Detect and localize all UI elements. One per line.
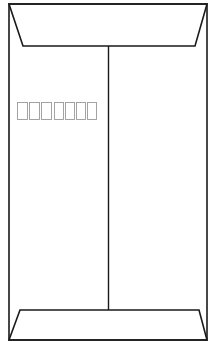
- postal-code-box: [42, 103, 52, 120]
- envelope-diagram: [0, 0, 212, 342]
- postal-code-box: [77, 103, 86, 120]
- postal-code-box: [55, 103, 64, 120]
- bottom-flap: [9, 310, 207, 340]
- postal-code-boxes: [18, 103, 97, 120]
- postal-code-box: [66, 103, 75, 120]
- postal-code-box: [30, 103, 40, 120]
- postal-code-box: [18, 103, 28, 120]
- envelope-outline: [9, 4, 207, 340]
- postal-code-box: [88, 103, 97, 120]
- top-flap: [9, 4, 207, 46]
